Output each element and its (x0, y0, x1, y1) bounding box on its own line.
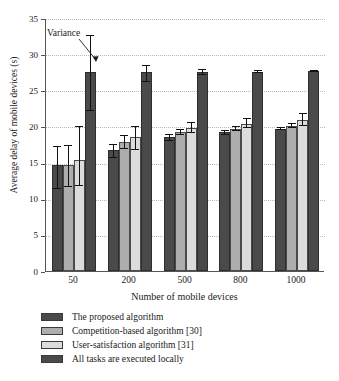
bar-group (219, 18, 263, 271)
error-bar-wrapper (141, 18, 152, 271)
legend-swatch-icon (41, 327, 63, 335)
error-bar-cap-top (75, 126, 83, 127)
error-bar (246, 118, 247, 128)
y-tick-label: 20 (0, 123, 38, 132)
error-bar-cap-bottom (109, 157, 117, 158)
error-bar-cap-top (277, 127, 285, 128)
legend-item[interactable]: All tasks are executed locally (41, 352, 301, 366)
error-bar-cap-bottom (176, 134, 184, 135)
error-bar-wrapper (230, 18, 241, 271)
bar-chart-figure: 05101520253035 Average delay of mobile d… (0, 0, 339, 381)
error-bar-cap-top (120, 135, 128, 136)
error-bar (235, 126, 236, 130)
y-tick-label: 10 (0, 195, 38, 204)
legend-swatch-icon (41, 313, 63, 321)
error-bar-cap-bottom (165, 140, 173, 141)
variance-annotation-label: Variance (47, 28, 80, 38)
error-bar-cap-top (86, 35, 94, 36)
error-bar-cap-bottom (221, 134, 229, 135)
x-tick-label: 800 (215, 275, 265, 285)
y-tick-label: 30 (0, 51, 38, 60)
error-bar-wrapper (197, 18, 208, 271)
error-bar-cap-top (243, 118, 251, 119)
legend: The proposed algorithmCompetition-based … (41, 310, 301, 366)
error-bar (146, 65, 147, 82)
error-bar-cap-top (288, 123, 296, 124)
error-bar-wrapper (252, 18, 263, 271)
legend-item[interactable]: Competition-based algorithm [30] (41, 324, 301, 338)
error-bar-cap-top (64, 145, 72, 146)
error-bar-cap-bottom (198, 74, 206, 75)
legend-item-label: All tasks are executed locally (72, 354, 184, 364)
error-bar-cap-bottom (299, 125, 307, 126)
error-bar-cap-bottom (131, 149, 139, 150)
error-bar-cap-bottom (120, 148, 128, 149)
error-bar-wrapper (119, 18, 130, 271)
error-bar (313, 70, 314, 72)
y-axis: 05101520253035 (0, 0, 44, 381)
error-bar (124, 135, 125, 149)
error-bar-wrapper (241, 18, 252, 271)
x-tick-label: 1000 (271, 275, 321, 285)
y-axis-title: Average delay of mobile devices (s) (9, 15, 19, 235)
error-bar-cap-top (165, 134, 173, 135)
error-bar-wrapper (186, 18, 197, 271)
legend-item-label: User-satisfaction algorithm [31] (72, 340, 194, 350)
x-axis: 502005008001000 (45, 275, 324, 289)
error-bar (57, 146, 58, 189)
error-bar-cap-top (198, 69, 206, 70)
legend-item[interactable]: The proposed algorithm (41, 310, 301, 324)
error-bar-wrapper (286, 18, 297, 271)
error-bar-wrapper (63, 18, 74, 271)
error-bar-wrapper (108, 18, 119, 271)
y-tick-mark (41, 272, 45, 273)
error-bar-wrapper (130, 18, 141, 271)
error-bar-wrapper (275, 18, 286, 271)
error-bar-wrapper (219, 18, 230, 271)
error-bar-cap-top (131, 126, 139, 127)
error-bar-cap-bottom (243, 127, 251, 128)
error-bar (79, 126, 80, 186)
legend-item[interactable]: User-satisfaction algorithm [31] (41, 338, 301, 352)
error-bar-cap-bottom (142, 81, 150, 82)
error-bar (113, 144, 114, 158)
bar-group (108, 18, 152, 271)
error-bar-cap-top (53, 146, 61, 147)
y-tick-label: 35 (0, 15, 38, 24)
error-bar (257, 70, 258, 73)
error-bar-cap-bottom (310, 71, 318, 72)
error-bar-wrapper (164, 18, 175, 271)
error-bar-wrapper (297, 18, 308, 271)
error-bar-cap-top (176, 129, 184, 130)
error-bar-cap-top (187, 122, 195, 123)
error-bar (280, 127, 281, 131)
bar-group (275, 18, 319, 271)
legend-item-label: The proposed algorithm (72, 312, 163, 322)
error-bar-cap-bottom (75, 185, 83, 186)
error-bar (135, 126, 136, 149)
error-bar (169, 134, 170, 141)
error-bar (68, 145, 69, 188)
x-tick-label: 200 (104, 275, 154, 285)
legend-swatch-icon (41, 355, 63, 363)
x-tick-label: 50 (48, 275, 98, 285)
error-bar-cap-bottom (86, 110, 94, 111)
error-bar-cap-bottom (232, 130, 240, 131)
error-bar (224, 130, 225, 135)
error-bar (191, 122, 192, 133)
x-axis-title: Number of mobile devices (45, 291, 324, 302)
y-tick-label: 5 (0, 231, 38, 240)
bar-group (164, 18, 208, 271)
y-tick-label: 15 (0, 159, 38, 168)
error-bar-cap-top (232, 126, 240, 127)
error-bar-cap-bottom (288, 127, 296, 128)
legend-swatch-icon (41, 341, 63, 349)
error-bar-wrapper (175, 18, 186, 271)
error-bar (180, 129, 181, 135)
error-bar-cap-bottom (64, 186, 72, 187)
error-bar-wrapper (308, 18, 319, 271)
error-bar-cap-top (221, 130, 229, 131)
error-bar-cap-top (109, 144, 117, 145)
error-bar-cap-top (299, 113, 307, 114)
error-bar-cap-bottom (254, 72, 262, 73)
